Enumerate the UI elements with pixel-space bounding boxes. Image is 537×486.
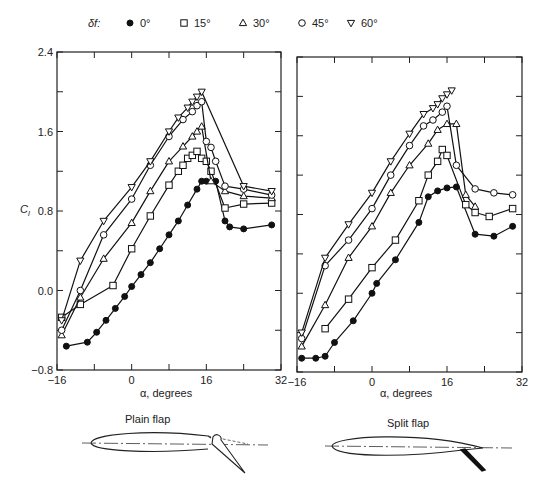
plain-flap-chart: −16016322.41.60.80.0−0.8 — [31, 46, 287, 386]
data-point-marker — [416, 198, 422, 204]
data-point-marker — [472, 231, 478, 237]
data-point-marker — [166, 182, 172, 188]
data-point-marker — [112, 305, 118, 311]
data-point-marker — [147, 187, 154, 193]
data-point-marker — [463, 201, 469, 207]
data-point-marker — [322, 325, 328, 331]
legend-item: 15° — [181, 17, 211, 29]
legend: δf: 0°15°30°45°60° — [88, 17, 378, 29]
data-point-marker — [299, 355, 305, 361]
data-point-marker — [345, 296, 351, 302]
data-point-marker — [128, 196, 135, 203]
data-point-marker — [94, 329, 100, 335]
data-point-marker — [322, 255, 329, 261]
series-line — [302, 90, 452, 332]
data-point-marker — [486, 213, 492, 219]
data-point-marker — [147, 260, 153, 266]
data-point-marker — [198, 98, 205, 105]
data-point-marker — [406, 142, 413, 149]
y-tick-label: 1.6 — [38, 126, 53, 138]
data-point-marker — [298, 343, 305, 349]
data-point-marker — [425, 194, 431, 200]
data-point-marker — [435, 188, 441, 194]
data-point-marker — [453, 162, 460, 169]
data-point-marker — [322, 301, 329, 307]
data-point-marker — [298, 330, 305, 336]
data-point-marker — [222, 205, 228, 211]
data-point-marker — [194, 186, 200, 192]
series-45deg — [298, 103, 516, 342]
data-point-marker — [332, 339, 338, 345]
data-point-marker — [194, 148, 200, 154]
legend-label: 45° — [312, 17, 329, 29]
data-point-marker — [77, 258, 84, 264]
x-tick-label: 16 — [441, 376, 453, 388]
data-point-marker — [157, 246, 163, 252]
data-point-marker — [374, 280, 380, 286]
x-axis-label-right: α, degrees — [380, 387, 433, 399]
legend-marker-icon — [347, 20, 354, 26]
series-30deg — [298, 120, 479, 349]
legend-label: 15° — [194, 17, 211, 29]
data-point-marker — [189, 108, 196, 115]
x-axis-label-left: α, degrees — [140, 387, 193, 399]
data-point-marker — [472, 209, 478, 215]
data-point-marker — [420, 123, 427, 130]
y-tick-label: 0.0 — [38, 285, 53, 297]
x-tick-label: 16 — [200, 374, 212, 386]
plot-frame — [57, 52, 281, 370]
data-point-marker — [240, 201, 246, 207]
data-point-marker — [208, 144, 215, 151]
x-tick-label: 32 — [516, 376, 528, 388]
data-point-marker — [103, 317, 109, 323]
y-tick-label: −0.8 — [31, 364, 53, 376]
legend-marker-icon — [181, 20, 187, 26]
data-point-marker — [110, 282, 116, 288]
data-point-marker — [313, 355, 319, 361]
data-point-marker — [392, 237, 398, 243]
chord-line — [325, 446, 512, 448]
series-60deg — [298, 88, 455, 337]
data-point-marker — [203, 138, 210, 145]
plain-flap-airfoil — [91, 433, 211, 452]
legend-item: 45° — [299, 17, 329, 29]
plain-flap-label: Plain flap — [125, 413, 170, 425]
data-point-marker — [387, 172, 394, 179]
data-point-marker — [100, 232, 107, 239]
x-tick-label: 0 — [129, 374, 135, 386]
data-point-marker — [58, 327, 65, 334]
y-tick-label: 0.8 — [38, 205, 53, 217]
data-point-marker — [434, 158, 440, 164]
data-point-marker — [100, 218, 107, 224]
data-point-marker — [175, 218, 181, 224]
series-line — [62, 127, 272, 336]
data-point-marker — [147, 213, 153, 219]
y-tick-label: 2.4 — [38, 46, 53, 58]
data-point-marker — [350, 318, 356, 324]
data-point-marker — [462, 191, 469, 197]
data-point-marker — [444, 152, 450, 158]
split-flap-label: Split flap — [387, 417, 429, 429]
data-point-marker — [429, 106, 436, 112]
data-point-marker — [227, 224, 233, 230]
data-point-marker — [166, 232, 172, 238]
data-point-marker — [439, 109, 446, 116]
data-point-marker — [434, 126, 441, 132]
deflected-split-flap — [461, 449, 485, 471]
series-line — [302, 106, 513, 338]
legend-item: 60° — [347, 17, 377, 29]
data-point-marker — [269, 222, 275, 228]
data-point-marker — [128, 219, 135, 225]
data-point-marker — [392, 257, 398, 263]
data-point-marker — [345, 237, 352, 244]
x-tick-label: 32 — [275, 374, 287, 386]
data-point-marker — [425, 172, 431, 178]
split-flap-sketch: Split flap — [325, 417, 512, 471]
series-line — [302, 187, 513, 358]
split-flap-chart: −1601632 — [288, 57, 528, 388]
data-point-marker — [491, 190, 498, 197]
legend-item: 0° — [127, 17, 151, 29]
legend-label: 0° — [140, 17, 151, 29]
figure: δf: 0°15°30°45°60° −16016322.41.60.80.0−… — [0, 0, 537, 486]
data-point-marker — [416, 219, 422, 225]
